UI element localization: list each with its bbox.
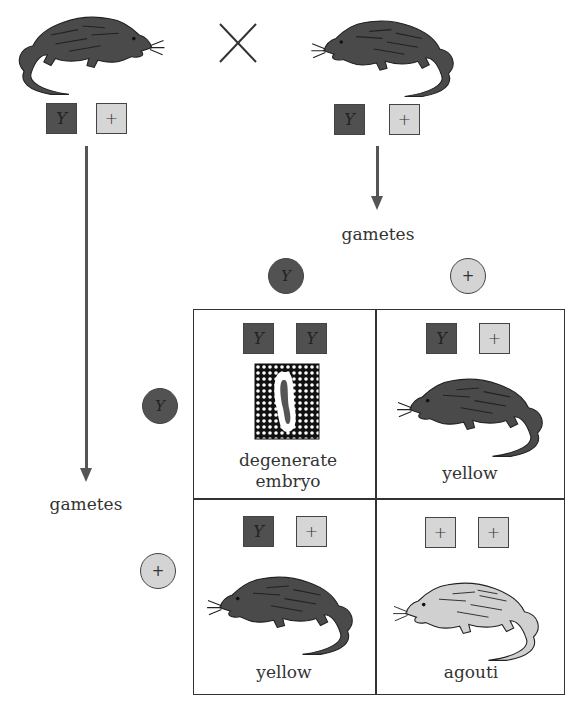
gamete-column-plus: + <box>450 258 486 294</box>
punnett-divider-vertical <box>375 309 377 695</box>
cell-yy-outcome: degenerate embryo <box>218 450 358 492</box>
parent-left-rat-image <box>12 8 162 98</box>
cell-plus-plus-allele-2: + <box>478 517 509 548</box>
allele-label: + <box>434 523 447 542</box>
cell-plus-plus-allele-1: + <box>425 517 456 548</box>
allele-label: + <box>105 109 118 128</box>
allele-label: Y <box>56 109 67 128</box>
cell-y-plus-bottom-allele-1: Y <box>243 516 274 547</box>
allele-label: + <box>488 329 501 348</box>
yellow-rat-image-top <box>402 370 547 460</box>
cell-yy-allele-1: Y <box>243 323 274 354</box>
cell-y-plus-top-outcome: yellow <box>420 463 520 484</box>
allele-label: Y <box>253 522 264 541</box>
outcome-line-2: embryo <box>218 471 358 492</box>
arrow-right-shaft <box>376 146 379 196</box>
gamete-label: + <box>462 267 475 285</box>
cell-y-plus-bottom-allele-2: + <box>296 516 327 547</box>
cell-y-plus-top-allele-1: Y <box>426 323 457 354</box>
allele-label: + <box>305 522 318 541</box>
parent-right-allele-y: Y <box>334 104 365 135</box>
gametes-label-left: gametes <box>46 494 126 515</box>
gametes-label-top: gametes <box>338 224 418 245</box>
parent-left-allele-plus: + <box>96 103 127 134</box>
gamete-label: Y <box>155 397 165 415</box>
cell-yy-allele-2: Y <box>296 323 327 354</box>
allele-label: + <box>487 523 500 542</box>
cell-plus-plus-outcome: agouti <box>421 662 521 683</box>
arrow-left-head <box>80 468 92 482</box>
allele-label: Y <box>436 329 447 348</box>
parent-left-allele-y: Y <box>46 103 77 134</box>
agouti-rat-image <box>398 574 543 664</box>
allele-label: Y <box>306 329 317 348</box>
cross-symbol <box>218 22 258 64</box>
parent-right-allele-plus: + <box>389 104 420 135</box>
allele-label: Y <box>344 110 355 129</box>
gamete-column-y: Y <box>268 258 304 294</box>
yellow-rat-image-bottom <box>212 568 357 658</box>
arrow-left-shaft <box>85 146 88 470</box>
outcome-line-1: degenerate <box>218 450 358 471</box>
degenerate-embryo-image <box>255 364 319 439</box>
cell-y-plus-bottom-outcome: yellow <box>234 662 334 683</box>
arrow-right-head <box>371 196 383 210</box>
gamete-row-y: Y <box>142 388 178 424</box>
cell-y-plus-top-allele-2: + <box>479 323 510 354</box>
gamete-label: + <box>152 562 165 580</box>
gamete-label: Y <box>281 267 291 285</box>
allele-label: + <box>398 110 411 129</box>
allele-label: Y <box>253 329 264 348</box>
parent-right-rat-image <box>312 12 462 100</box>
punnett-divider-horizontal <box>193 498 565 500</box>
gamete-row-plus: + <box>140 553 176 589</box>
